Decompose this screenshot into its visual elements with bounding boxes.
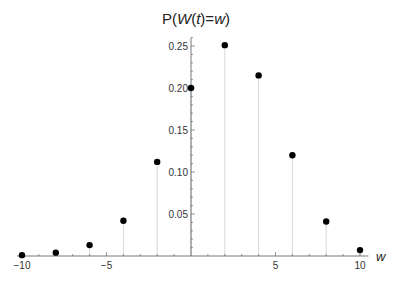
x-tick-label: 5 [273,260,279,271]
x-axis-label: w [376,249,387,264]
data-point [53,249,59,255]
chart-title: P(W(t)=w) [162,10,230,27]
y-tick-label: 0.10 [169,167,189,178]
y-tick-label: 0.20 [169,83,189,94]
axis-ticks: −10−55100.050.100.150.200.25 [14,38,366,271]
stem-plot: −10−55100.050.100.150.200.25 P(W(t)=w) w [0,0,401,282]
data-point [289,152,295,158]
data-point [323,218,329,224]
data-point [255,72,261,78]
x-tick-label: −10 [14,260,31,271]
data-point [120,218,126,224]
x-tick-label: −5 [101,260,113,271]
data-point [86,242,92,248]
data-point [222,42,228,48]
y-tick-label: 0.15 [169,125,189,136]
data-point [19,252,25,258]
data-point [154,159,160,165]
data-point [357,247,363,253]
y-tick-label: 0.05 [169,209,189,220]
data-point [188,85,194,91]
y-tick-label: 0.25 [169,41,189,52]
x-tick-label: 10 [354,260,366,271]
